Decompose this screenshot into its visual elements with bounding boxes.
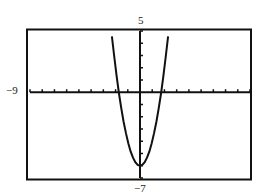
ymax-label: 5 [138, 14, 144, 26]
xmin-label: −9 [6, 84, 18, 96]
graph-screen [0, 0, 256, 194]
ymin-label: −7 [134, 182, 146, 194]
